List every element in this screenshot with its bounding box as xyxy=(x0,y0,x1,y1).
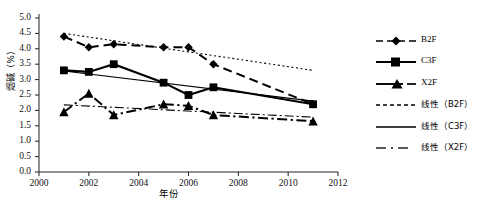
x-tick-label: 2008 xyxy=(218,178,258,188)
legend-label: B2F xyxy=(421,34,437,44)
legend-item: 线性（B2F） xyxy=(376,93,484,115)
x-tick-label: 2000 xyxy=(19,178,59,188)
legend-item: X2F xyxy=(376,71,484,93)
y-tick-label: 3.0 xyxy=(1,74,31,84)
y-tick-label: 2.0 xyxy=(1,104,31,114)
y-tick-label: 1.5 xyxy=(1,120,31,130)
legend-key-trend-c3f xyxy=(376,119,416,131)
legend-item: 线性（X2F） xyxy=(376,136,484,158)
legend-key-x2f xyxy=(376,76,416,88)
legend-item: 线性（C3F） xyxy=(376,114,484,136)
legend-label: 线性（B2F） xyxy=(421,97,473,109)
legend-label: 线性（C3F） xyxy=(421,119,473,131)
y-tick-label: 4.0 xyxy=(1,43,31,53)
y-tick-label: 2.5 xyxy=(1,89,31,99)
legend: B2F C3F X2F xyxy=(376,28,484,157)
legend-label: 线性（X2F） xyxy=(421,140,473,152)
legend-key-trend-x2f xyxy=(376,140,416,152)
y-tick-label: 5.0 xyxy=(1,12,31,22)
y-tick-label: 0.5 xyxy=(1,151,31,161)
x-tick-label: 2004 xyxy=(119,178,159,188)
y-tick-label: 3.5 xyxy=(1,58,31,68)
x-tick-label: 2012 xyxy=(318,178,358,188)
legend-label: C3F xyxy=(421,55,437,65)
figure: 烟碱（%） 年份 B2F C3F xyxy=(0,0,484,213)
legend-item: B2F xyxy=(376,28,484,50)
x-tick-label: 2006 xyxy=(169,178,209,188)
y-tick-label: 1.0 xyxy=(1,135,31,145)
x-tick-label: 2010 xyxy=(268,178,308,188)
legend-label: X2F xyxy=(421,77,437,87)
y-tick-label: 4.5 xyxy=(1,27,31,37)
legend-key-c3f xyxy=(376,54,416,66)
legend-key-trend-b2f xyxy=(376,97,416,109)
x-tick-label: 2002 xyxy=(69,178,109,188)
legend-key-b2f xyxy=(376,33,416,45)
y-tick-label: 0.0 xyxy=(1,166,31,176)
legend-item: C3F xyxy=(376,50,484,72)
